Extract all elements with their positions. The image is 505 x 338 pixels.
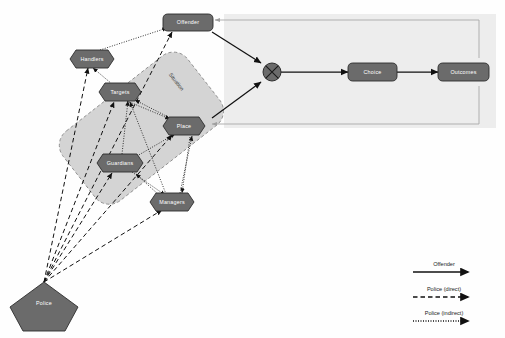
edge-handlers-offender [100, 28, 167, 50]
legend-label-offender: Offender [433, 261, 455, 267]
edge-police-guardians [44, 173, 112, 282]
node-managers[interactable]: Managers [150, 193, 194, 211]
node-choice-label: Choice [364, 69, 382, 75]
node-handlers[interactable]: Handlers [70, 50, 114, 68]
legend: Offender Police (direct) Police (indirec… [413, 261, 468, 321]
node-outcomes-label: Outcomes [450, 69, 476, 75]
edge-targets-handlers [93, 68, 112, 84]
legend-label-police-direct: Police (direct) [427, 286, 461, 292]
node-police[interactable]: Police [10, 282, 78, 331]
node-handlers-label: Handlers [80, 56, 103, 62]
node-place-label: Place [177, 123, 192, 129]
node-managers-label: Managers [159, 199, 185, 205]
legend-label-police-indirect: Police (indirect) [425, 310, 464, 316]
node-outcomes[interactable]: Outcomes [438, 63, 489, 81]
node-guardians-label: Guardians [107, 160, 134, 166]
node-police-label: Police [36, 300, 52, 306]
node-place[interactable]: Place [163, 117, 205, 135]
node-offender[interactable]: Offender [163, 14, 213, 31]
edge-police-managers [44, 210, 162, 282]
node-junction[interactable] [263, 63, 281, 81]
node-targets[interactable]: Targets [99, 83, 141, 101]
node-choice[interactable]: Choice [348, 63, 397, 81]
node-targets-label: Targets [110, 89, 129, 95]
crime-model-diagram: Situation [0, 0, 505, 338]
node-offender-label: Offender [177, 19, 199, 25]
node-guardians[interactable]: Guardians [97, 154, 143, 172]
diagram-canvas: Situation [0, 0, 505, 338]
